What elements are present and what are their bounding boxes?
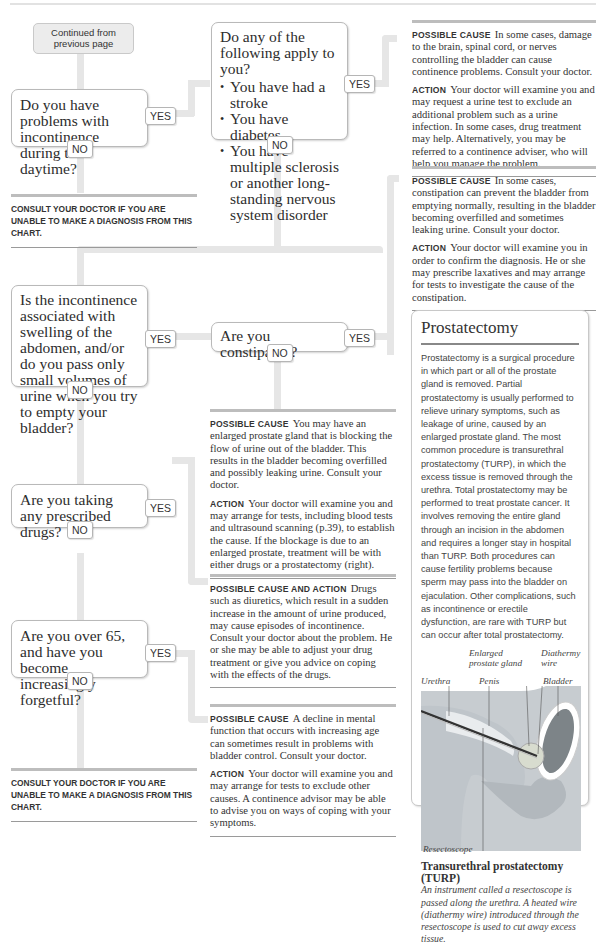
result-mental-decline: Possible causeA decline in mental functi… [210,704,396,837]
question-text: Are you over 65, and have you become inc… [20,627,125,708]
possible-cause-label: Possible cause [412,30,491,40]
possible-cause-label: Possible cause [210,714,289,724]
sidebar-body: Prostatectomy is a surgical procedure in… [421,352,579,642]
yes-button[interactable]: YES [145,107,176,125]
question-text: Is the incontinence associated with swel… [20,291,138,436]
no-button[interactable]: NO [67,140,93,158]
label-enlarged-prostate: Enlarged prostate gland [469,648,529,668]
result-enlarged-prostate: Possible causeYou may have an enlarged p… [210,409,396,579]
no-button[interactable]: NO [267,344,293,362]
result-constipation: Possible causeIn some cases, constipatio… [412,166,596,311]
action-label: Action [210,499,244,509]
question-abdominal-swelling: Is the incontinence associated with swel… [11,285,148,387]
no-button[interactable]: NO [267,136,293,154]
no-button[interactable]: NO [67,381,93,399]
action-text: Your doctor will examine you and may req… [412,84,595,169]
yes-button[interactable]: YES [145,499,176,517]
question-intro: Do any of the following apply to you? [220,28,335,77]
possible-cause-text: Drugs such as diuretics, which result in… [210,583,392,680]
title-rule [421,343,579,345]
turp-illustration: Enlarged prostate gland Diathermy wire U… [421,648,581,856]
result-drugs: Possible cause and actionDrugs such as d… [210,574,396,688]
label-resectoscope: Resectoscope [423,844,473,854]
consult-doctor-note: Consult your doctor if you are unable to… [11,194,197,248]
continued-from-previous-page: Continued from previous page [33,23,134,54]
action-label: Action [210,769,244,779]
no-button[interactable]: NO [67,672,93,690]
label-penis: Penis [479,676,499,686]
caption-text: An instrument called a resectoscope is p… [421,884,579,945]
page-top-rule [10,3,596,5]
consult-doctor-note: Consult your doctor if you are unable to… [11,768,197,822]
condition-item: You have had a stroke [220,79,339,111]
caption-title: Transurethral prostatectomy (TURP) [421,860,579,884]
possible-cause-label: Possible cause [412,176,491,186]
possible-cause-and-action-label: Possible cause and action [210,584,347,594]
question-daytime-incontinence: Do you have problems with incontinence d… [11,89,148,147]
label-bladder: Bladder [543,676,573,686]
sidebar-title: Prostatectomy [421,318,579,338]
consult-text: Consult your doctor if you are unable to… [11,203,197,239]
condition-item: You have multiple sclerosis or another l… [220,143,339,223]
yes-button[interactable]: YES [344,75,375,93]
anatomy-diagram [421,686,581,856]
question-over-65: Are you over 65, and have you become inc… [11,620,148,678]
possible-cause-label: Possible cause [210,419,289,429]
yes-button[interactable]: YES [344,329,375,347]
action-label: Action [412,243,446,253]
consult-text: Consult your doctor if you are unable to… [11,777,197,813]
yes-button[interactable]: YES [145,330,176,348]
prostatectomy-sidebar: Prostatectomy Prostatectomy is a surgica… [411,310,589,806]
action-label: Action [412,85,446,95]
no-button[interactable]: NO [67,521,93,539]
result-nervous-system: Possible causeIn some cases, damage to t… [412,20,596,177]
label-urethra: Urethra [421,676,450,686]
yes-button[interactable]: YES [145,644,176,662]
question-conditions: Do any of the following apply to you? Yo… [211,22,348,140]
label-diathermy-wire: Diathermy wire [541,648,581,668]
question-text: Do you have problems with incontinence d… [20,96,109,177]
